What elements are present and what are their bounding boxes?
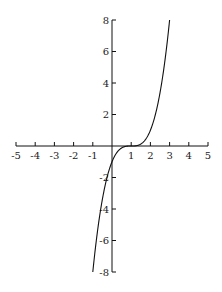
- y-tick-label: 6: [103, 46, 109, 57]
- x-tick-label: 3: [166, 150, 172, 161]
- x-tick-label: 1: [128, 150, 134, 161]
- y-tick-label: 2: [103, 109, 109, 120]
- cubic-function-plot: -5-4-3-2-112345 -8-6-4-22468: [0, 0, 222, 292]
- x-axis-ticks: -5-4-3-2-112345: [11, 142, 211, 161]
- x-tick-label: 4: [186, 150, 192, 161]
- x-tick-label: -2: [69, 150, 79, 161]
- x-tick-label: 2: [147, 150, 153, 161]
- x-tick-label: -5: [11, 150, 21, 161]
- y-tick-label: 4: [103, 78, 109, 89]
- plot-canvas: -5-4-3-2-112345 -8-6-4-22468: [0, 0, 222, 292]
- y-tick-label: -8: [99, 267, 109, 278]
- x-tick-label: -4: [30, 150, 40, 161]
- x-tick-label: 5: [205, 150, 211, 161]
- y-tick-label: 8: [103, 15, 109, 26]
- x-tick-label: -1: [88, 150, 98, 161]
- x-tick-label: -3: [50, 150, 60, 161]
- axes: [16, 20, 208, 272]
- y-tick-label: -6: [99, 235, 109, 246]
